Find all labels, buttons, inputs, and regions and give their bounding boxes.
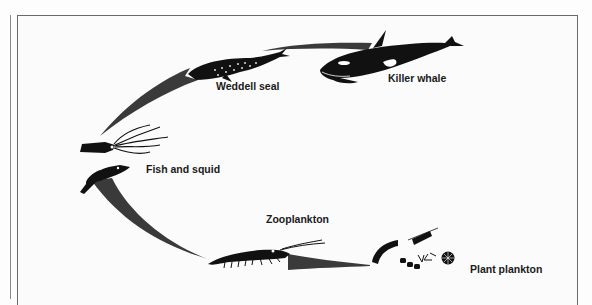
zooplankton-label: Zooplankton — [266, 213, 329, 225]
plant-plankton-icon — [372, 228, 455, 269]
killer-whale-label: Killer whale — [388, 72, 446, 84]
arrow-zooplankton-to-fish — [92, 178, 208, 259]
plant-plankton-label: Plant plankton — [470, 263, 542, 275]
fish-and-squid-label: Fish and squid — [146, 163, 220, 175]
arrow-plankton-to-zooplankton — [288, 254, 370, 270]
weddell-seal-label: Weddell seal — [216, 80, 279, 92]
arrow-seal-to-whale — [262, 43, 372, 51]
squid-icon — [80, 125, 168, 153]
weddell-seal-icon — [188, 48, 290, 82]
